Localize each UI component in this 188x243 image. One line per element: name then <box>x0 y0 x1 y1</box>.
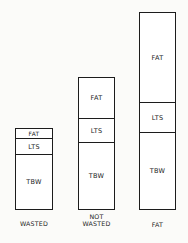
segment-lts: LTS <box>140 102 175 132</box>
segment-tbw: TBW <box>79 142 114 209</box>
segment-lts: LTS <box>79 118 114 142</box>
label-line: FAT <box>135 221 180 228</box>
segment-fat: FAT <box>140 13 175 102</box>
segment-fat: FAT <box>16 129 52 138</box>
segment-tbw: TBW <box>16 154 52 209</box>
bar-wasted: FAT LTS TBW <box>15 128 53 210</box>
label-line: WASTED <box>8 220 60 227</box>
label-line: WASTED <box>70 220 123 227</box>
bar-not-wasted: FAT LTS TBW <box>78 77 115 210</box>
label-not-wasted: NOT WASTED <box>70 213 123 227</box>
segment-fat: FAT <box>79 78 114 118</box>
segment-lts: LTS <box>16 138 52 154</box>
label-wasted: WASTED <box>8 220 60 227</box>
label-line: NOT <box>70 213 123 220</box>
segment-tbw: TBW <box>140 132 175 209</box>
bar-fat: FAT LTS TBW <box>139 12 176 210</box>
label-fat: FAT <box>135 221 180 228</box>
